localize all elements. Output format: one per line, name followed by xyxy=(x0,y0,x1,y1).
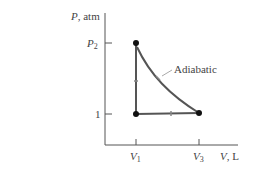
adiabatic-label: Adiabatic xyxy=(174,63,217,75)
adiabatic-path xyxy=(137,47,199,113)
isobaric-path xyxy=(136,113,199,114)
x-tick-label-v3: V3 xyxy=(193,150,204,164)
y-tick-label-p2: P2 xyxy=(86,37,98,51)
cycle-paths xyxy=(134,43,199,116)
y-axis-label: P, atm xyxy=(70,10,100,22)
x-axis-label: V, L xyxy=(220,150,239,162)
y-tick-label-1: 1 xyxy=(95,108,101,120)
state-point-3 xyxy=(196,110,202,116)
pv-diagram: P, atm P2 1 V1 V3 V, L Adiabatic xyxy=(0,0,261,170)
x-tick-label-v1: V1 xyxy=(130,150,141,164)
adiabatic-leader xyxy=(162,70,172,76)
state-point-1 xyxy=(133,40,139,46)
state-point-2 xyxy=(133,111,139,117)
state-points xyxy=(133,40,202,117)
axes xyxy=(105,13,238,145)
